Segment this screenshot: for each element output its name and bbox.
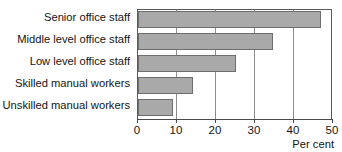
bar-skilled-manual-workers (138, 77, 193, 94)
category-label-unskilled-manual-workers: Unskilled manual workers (3, 99, 130, 112)
x-tick-10 (176, 119, 177, 123)
x-axis-line (137, 119, 333, 120)
x-tick-label-0: 0 (125, 124, 149, 136)
clipped-title-text (4, 0, 204, 3)
x-tick-label-40: 40 (281, 124, 305, 136)
bar-middle-level-office-staff (138, 33, 273, 50)
x-tick-0 (137, 119, 138, 123)
x-tick-label-20: 20 (203, 124, 227, 136)
x-tick-label-30: 30 (242, 124, 266, 136)
x-tick-label-50: 50 (320, 124, 342, 136)
category-axis-labels: Senior office staff Middle level office … (0, 9, 134, 119)
bar-senior-office-staff (138, 11, 321, 28)
category-label-low-level-office-staff: Low level office staff (30, 55, 130, 68)
category-label-middle-level-office-staff: Middle level office staff (17, 33, 130, 46)
bar-chart: Senior office staff Middle level office … (0, 0, 342, 152)
category-label-senior-office-staff: Senior office staff (44, 11, 130, 24)
plot-area (137, 9, 332, 119)
x-tick-50 (332, 119, 333, 123)
category-label-skilled-manual-workers: Skilled manual workers (15, 77, 130, 90)
bar-low-level-office-staff (138, 55, 236, 72)
bar-unskilled-manual-workers (138, 99, 173, 116)
x-tick-40 (293, 119, 294, 123)
x-tick-label-10: 10 (164, 124, 188, 136)
x-tick-30 (254, 119, 255, 123)
x-tick-20 (215, 119, 216, 123)
x-axis-title: Per cent (292, 138, 334, 150)
